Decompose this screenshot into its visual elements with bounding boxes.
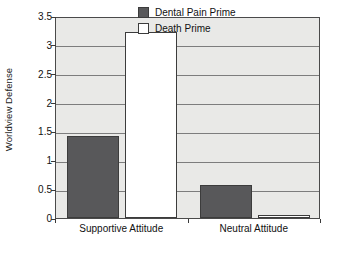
bar bbox=[258, 215, 310, 218]
plot-area bbox=[55, 17, 320, 219]
gridline bbox=[56, 75, 319, 76]
y-axis-tick-mark bbox=[51, 103, 56, 104]
x-axis-tick-mark bbox=[55, 219, 56, 223]
y-axis-title: Worldview Defense bbox=[0, 0, 18, 219]
legend-item-death-prime: Death Prime bbox=[138, 23, 236, 34]
y-axis-tick-label: 1.5 bbox=[22, 127, 52, 137]
y-axis-tick-mark bbox=[51, 17, 56, 18]
legend-label: Death Prime bbox=[155, 24, 211, 34]
y-axis-tick-label: 2.5 bbox=[22, 70, 52, 80]
bar bbox=[67, 136, 119, 218]
y-axis-tick-label: 3.5 bbox=[22, 12, 52, 22]
bar bbox=[200, 185, 252, 218]
gridline bbox=[56, 46, 319, 47]
x-axis-tick-labels: Supportive AttitudeNeutral Attitude bbox=[55, 223, 320, 243]
gridline bbox=[56, 133, 319, 134]
gridline bbox=[56, 104, 319, 105]
y-axis-tick-mark bbox=[51, 45, 56, 46]
bar bbox=[125, 32, 177, 218]
y-axis-tick-mark bbox=[51, 190, 56, 191]
x-axis-tick-label: Supportive Attitude bbox=[79, 223, 163, 234]
bar-chart: Worldview Defense 00.511.522.533.5 Denta… bbox=[0, 0, 338, 253]
y-axis-tick-label: 0 bbox=[22, 214, 52, 224]
y-axis-tick-mark bbox=[51, 132, 56, 133]
legend-swatch-icon bbox=[138, 7, 149, 18]
x-axis-tick-mark bbox=[320, 219, 321, 223]
y-axis-tick-label: 0.5 bbox=[22, 185, 52, 195]
chart-legend: Dental Pain Prime Death Prime bbox=[138, 7, 236, 34]
legend-item-dental-pain-prime: Dental Pain Prime bbox=[138, 7, 236, 18]
y-axis-tick-mark bbox=[51, 74, 56, 75]
y-axis-tick-label: 1 bbox=[22, 156, 52, 166]
y-axis-tick-labels: 00.511.522.533.5 bbox=[18, 0, 52, 253]
y-axis-tick-label: 3 bbox=[22, 41, 52, 51]
legend-swatch-icon bbox=[138, 23, 149, 34]
y-axis-title-text: Worldview Defense bbox=[4, 68, 15, 151]
x-axis-tick-mark bbox=[188, 219, 189, 223]
y-axis-tick-label: 2 bbox=[22, 99, 52, 109]
y-axis-tick-mark bbox=[51, 161, 56, 162]
legend-label: Dental Pain Prime bbox=[155, 8, 236, 18]
x-axis-tick-label: Neutral Attitude bbox=[220, 223, 288, 234]
